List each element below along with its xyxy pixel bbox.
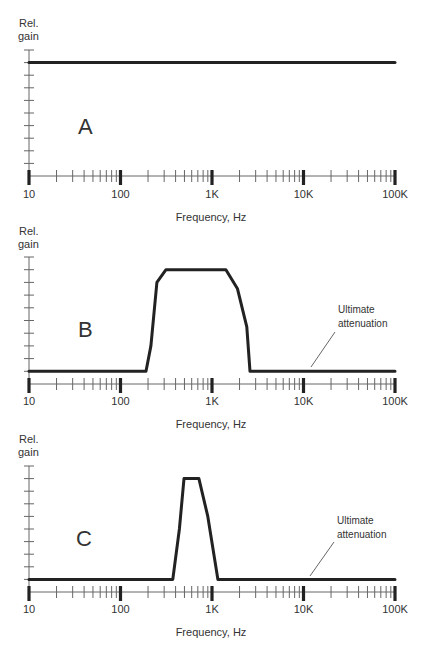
panel-label: B — [78, 317, 93, 342]
x-tick-label: 1K — [205, 603, 219, 615]
y-axis-label: gain — [18, 30, 39, 42]
x-tick-label: 100K — [382, 188, 408, 200]
annotation-label: attenuation — [337, 529, 387, 540]
y-axis — [24, 257, 34, 384]
y-axis-label: Rel. — [19, 17, 39, 29]
x-tick-label: 100 — [111, 188, 129, 200]
x-tick-label: 10 — [23, 188, 35, 200]
x-tick-label: 100 — [111, 395, 129, 407]
panel-a: Rel. gain 101001K10K100K A Frequency, Hz — [18, 17, 409, 223]
x-tick-label: 10K — [294, 603, 314, 615]
panel-b: Rel. gain 101001K10K100K B Ultimate atte… — [18, 225, 409, 430]
panel-label: C — [76, 526, 92, 551]
x-tick-label: 10K — [294, 395, 314, 407]
x-tick-label: 100 — [111, 603, 129, 615]
annotation-leader-line — [310, 542, 334, 576]
filter-response-figure: Rel. gain 101001K10K100K A Frequency, Hz… — [0, 0, 424, 650]
y-axis-label: gain — [18, 446, 39, 458]
annotation-label: attenuation — [338, 318, 388, 329]
y-axis-label: Rel. — [19, 433, 39, 445]
x-axis-label: Frequency, Hz — [176, 626, 247, 638]
panel-c: Rel. gain 101001K10K100K C Ultimate atte… — [18, 433, 409, 638]
x-tick-label: 100K — [382, 395, 408, 407]
y-axis-label: gain — [18, 238, 39, 250]
y-axis — [24, 466, 34, 592]
y-axis — [24, 50, 34, 176]
x-tick-label: 100K — [382, 603, 408, 615]
x-axis-label: Frequency, Hz — [176, 418, 247, 430]
x-tick-label: 1K — [205, 395, 219, 407]
x-tick-label: 1K — [205, 188, 219, 200]
x-tick-label: 10 — [23, 603, 35, 615]
x-tick-label: 10 — [23, 395, 35, 407]
panel-label: A — [78, 114, 93, 139]
x-axis: 101001K10K100K — [23, 586, 409, 615]
x-axis: 101001K10K100K — [23, 378, 409, 407]
x-tick-label: 10K — [294, 188, 314, 200]
y-axis-label: Rel. — [19, 225, 39, 237]
x-axis: 101001K10K100K — [23, 170, 409, 200]
annotation-leader-line — [311, 332, 335, 367]
annotation-label: Ultimate — [337, 515, 374, 526]
x-axis-label: Frequency, Hz — [176, 211, 247, 223]
annotation-label: Ultimate — [338, 304, 375, 315]
